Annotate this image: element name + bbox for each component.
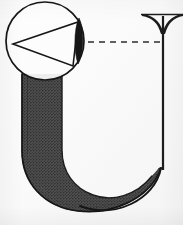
letterform-illustration	[0, 0, 183, 225]
cropped-caption-strip	[0, 216, 183, 225]
construction-circle	[6, 2, 84, 80]
figure-canvas	[0, 0, 183, 225]
